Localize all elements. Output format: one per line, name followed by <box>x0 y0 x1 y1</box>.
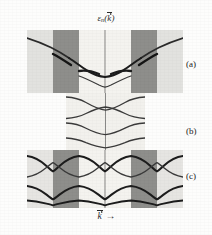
y-axis-label: εn(k) <box>0 13 212 23</box>
panel-label-a: (a) <box>186 59 210 69</box>
band-structure-figure: εn(k) <box>0 0 212 235</box>
panel-c-plot <box>27 150 183 208</box>
panel-label-b: (b) <box>186 126 210 136</box>
panel-a-extended-zone <box>27 30 183 93</box>
panel-label-c: (c) <box>186 171 210 181</box>
panel-b-plot <box>66 93 145 150</box>
panel-a-plot <box>27 30 183 93</box>
panel-b-reduced-zone <box>66 93 145 150</box>
x-axis-label: k→ <box>0 210 212 221</box>
panel-c-repeated-zone <box>27 150 183 208</box>
